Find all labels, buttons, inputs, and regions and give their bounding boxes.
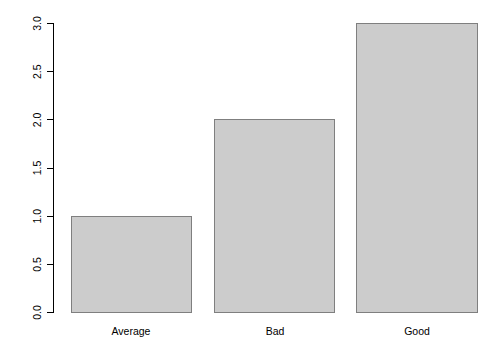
bar-average (72, 216, 192, 312)
y-tick-label-6: 3.0 (31, 16, 43, 31)
bar-bad (215, 120, 335, 313)
category-label-good: Good (404, 325, 430, 337)
y-tick-label-4: 2.0 (31, 112, 43, 127)
category-label-average: Average (112, 325, 151, 337)
y-tick-label-2: 1.0 (31, 209, 43, 224)
y-tick-label-3: 1.5 (31, 161, 43, 176)
y-tick-label-0: 0.0 (31, 305, 43, 320)
y-tick-label-1: 0.5 (31, 257, 43, 272)
bar-good (357, 24, 478, 313)
y-tick-label-5: 2.5 (31, 64, 43, 79)
category-label-bad: Bad (266, 325, 285, 337)
chart-canvas: 0.0 0.5 1.0 1.5 2.0 2.5 3.0 Average Bad … (0, 0, 499, 352)
bar-chart-figure: 0.0 0.5 1.0 1.5 2.0 2.5 3.0 Average Bad … (0, 0, 499, 352)
